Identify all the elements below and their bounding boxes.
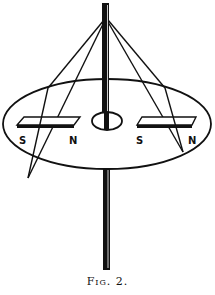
vertical-rod [102,3,110,270]
right-magnet-north-label: N [188,135,196,146]
left-magnet-north-label: N [69,135,77,146]
right-magnet-south-label: S [136,135,143,146]
left-magnet-south-label: S [19,135,26,146]
figure-caption: Fig. 2. [0,275,215,288]
figure-diagram: S N S N [0,0,215,295]
left-magnet [17,117,80,128]
right-magnet [137,117,196,128]
